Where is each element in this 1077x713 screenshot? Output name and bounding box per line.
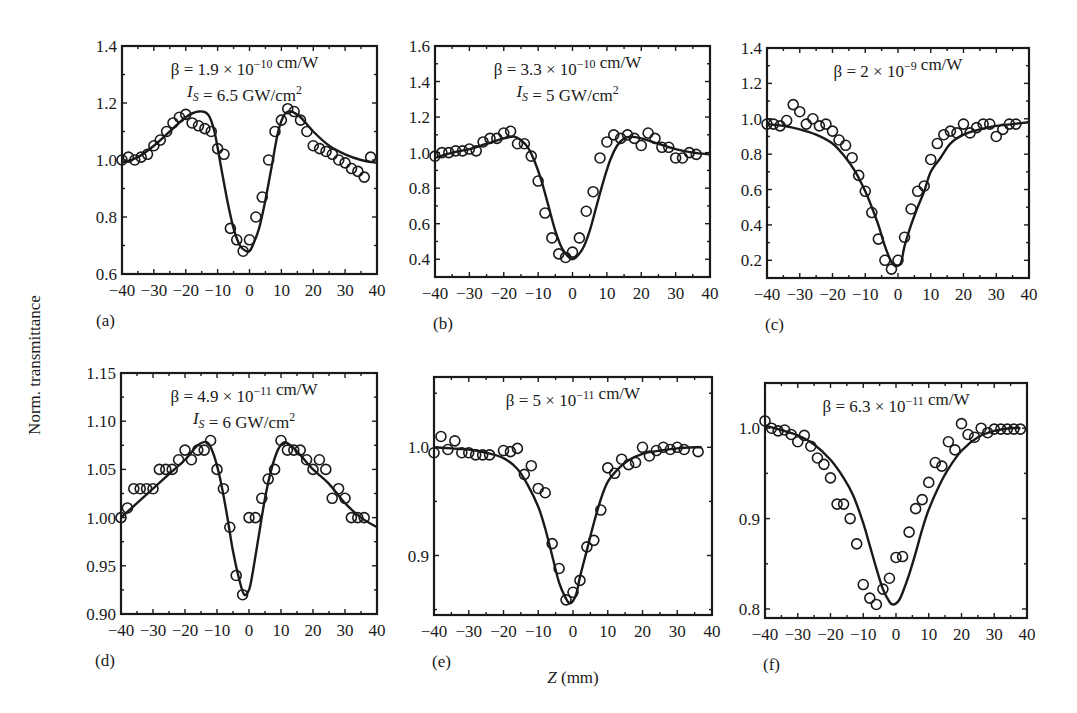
y-tick-label: 0.9 <box>739 510 760 529</box>
x-tick-label: −20 <box>819 285 846 304</box>
data-point <box>359 172 369 182</box>
data-point <box>499 128 509 138</box>
x-tick-label: −10 <box>525 622 552 641</box>
y-tick-label: 0.95 <box>86 557 116 576</box>
data-point <box>679 444 689 454</box>
data-point <box>200 124 210 134</box>
panel-label: (d) <box>95 651 115 670</box>
data-point <box>340 158 350 168</box>
x-tick-label: 40 <box>369 281 386 300</box>
x-tick-label: −30 <box>784 625 811 644</box>
data-point <box>526 461 536 471</box>
panel-label: (e) <box>432 652 451 671</box>
fit-curve <box>765 425 1020 604</box>
data-point <box>180 445 190 455</box>
x-tick-label: −30 <box>141 281 168 300</box>
figure-canvas: −40−30−20−100102030400.60.81.01.21.4β = … <box>0 0 1077 713</box>
y-tick-label: 1.0 <box>96 151 117 170</box>
data-point <box>327 149 337 159</box>
x-tick-label: −10 <box>852 285 879 304</box>
data-point <box>353 166 363 176</box>
y-tick-label: 0.6 <box>96 265 117 284</box>
data-point <box>847 153 857 163</box>
x-tick-label: −10 <box>204 621 231 640</box>
x-tick-label: −40 <box>752 625 779 644</box>
axes-frame <box>434 377 712 615</box>
data-point <box>450 436 460 446</box>
y-tick-label: 1.0 <box>408 438 429 457</box>
x-tick-label: 10 <box>273 281 290 300</box>
data-point <box>603 463 613 473</box>
x-tick-label: 20 <box>955 285 972 304</box>
x-axis-label: Z (mm) <box>547 668 599 688</box>
x-tick-label: 30 <box>667 284 684 303</box>
data-point <box>801 119 811 129</box>
panel-annotation: IS = 6 GW/cm2 <box>192 409 295 432</box>
data-point <box>174 112 184 122</box>
data-point <box>795 107 805 117</box>
y-tick-label: 1.4 <box>409 73 431 92</box>
panel-annotation: β = 1.9 × 10−10 cm/W <box>171 53 319 79</box>
data-point <box>911 504 921 514</box>
x-tick-label: 20 <box>305 621 322 640</box>
data-point <box>250 513 260 523</box>
data-point <box>302 127 312 137</box>
data-point <box>952 128 962 138</box>
data-point <box>904 527 914 537</box>
data-point <box>186 455 196 465</box>
data-point <box>884 573 894 583</box>
panel-label: (c) <box>765 315 784 334</box>
panel-annotation: IS = 5 GW/cm2 <box>515 82 618 105</box>
x-tick-label: 0 <box>245 281 254 300</box>
axes-frame <box>767 48 1029 278</box>
x-tick-label: 30 <box>986 625 1003 644</box>
data-point <box>638 442 648 452</box>
x-tick-label: 40 <box>1019 625 1036 644</box>
data-point <box>574 233 584 243</box>
x-tick-label: 10 <box>599 622 616 641</box>
panel-annotation: β = 4.9 × 10−11 cm/W <box>170 380 318 406</box>
panel-annotation: β = 6.3 × 10−11 cm/W <box>822 390 970 416</box>
data-point <box>926 154 936 164</box>
x-tick-label: 0 <box>894 285 903 304</box>
data-point <box>347 164 357 174</box>
x-tick-label: 30 <box>669 622 686 641</box>
x-tick-label: 10 <box>273 621 290 640</box>
panel-annotation: β = 5 × 10−11 cm/W <box>506 384 641 410</box>
x-tick-label: −10 <box>525 284 552 303</box>
y-axis-label: Norm. transmittance <box>25 295 45 435</box>
x-tick-label: 30 <box>337 281 354 300</box>
panel-annotation: β = 3.3 × 10−10 cm/W <box>494 53 642 79</box>
axes-frame <box>435 46 710 277</box>
y-tick-label: 1.00 <box>86 509 116 528</box>
x-tick-label: −40 <box>754 285 781 304</box>
x-tick-label: 10 <box>920 625 937 644</box>
x-tick-label: −30 <box>456 284 483 303</box>
y-tick-label: 0.4 <box>409 250 431 269</box>
panel-e: −40−30−20−100102030400.91.0β = 5 × 10−11… <box>408 377 721 671</box>
x-tick-label: −20 <box>172 621 199 640</box>
data-point <box>913 186 923 196</box>
panel-label: (a) <box>96 311 115 330</box>
data-point <box>321 146 331 156</box>
data-point <box>631 457 641 467</box>
x-tick-label: −20 <box>172 281 199 300</box>
axes-frame <box>765 383 1027 618</box>
x-tick-label: 40 <box>704 622 721 641</box>
x-tick-label: 40 <box>369 621 386 640</box>
data-point <box>812 453 822 463</box>
data-point <box>245 235 255 245</box>
data-point <box>871 599 881 609</box>
data-point <box>636 141 646 151</box>
data-point <box>924 477 934 487</box>
data-point <box>852 539 862 549</box>
y-tick-label: 1.05 <box>86 460 116 479</box>
x-tick-label: −30 <box>455 622 482 641</box>
x-tick-label: 20 <box>633 284 650 303</box>
y-tick-label: 1.2 <box>409 108 430 127</box>
data-point <box>187 118 197 128</box>
data-point <box>506 126 516 136</box>
x-tick-label: −20 <box>490 284 517 303</box>
data-point <box>595 153 605 163</box>
data-point <box>334 155 344 165</box>
